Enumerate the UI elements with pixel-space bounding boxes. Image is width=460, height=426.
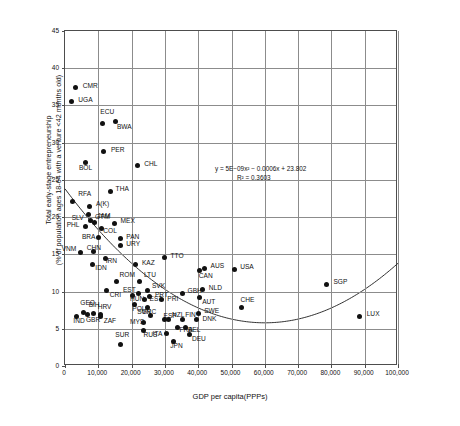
data-point: [197, 295, 202, 300]
data-point-label: BRA: [82, 233, 96, 240]
data-point-label: JAM: [97, 212, 110, 219]
data-point: [91, 311, 96, 316]
data-point: [180, 291, 185, 296]
data-point-label: SGP: [333, 278, 347, 285]
gridline-horizontal: [65, 329, 396, 330]
data-point: [73, 85, 78, 90]
y-axis-tick: 25: [29, 175, 59, 182]
data-point: [162, 255, 167, 260]
data-point: [166, 317, 171, 322]
data-point: [118, 342, 123, 347]
gridline-vertical: [398, 31, 399, 364]
data-point-label: A(K): [96, 200, 109, 207]
y-axis-tick: 15: [29, 250, 59, 257]
data-point: [70, 199, 75, 204]
gridline-horizontal: [65, 105, 396, 106]
data-point: [112, 221, 117, 226]
data-point: [202, 266, 207, 271]
data-point: [90, 262, 95, 267]
data-point: [108, 189, 113, 194]
x-axis-tick-mark: [331, 364, 332, 368]
data-point: [101, 149, 106, 154]
data-point-label: PHL: [67, 221, 80, 228]
gridline-vertical: [298, 31, 299, 364]
data-point-label: SWE: [204, 307, 219, 314]
x-axis-label: GDP per capita(PPPs): [0, 392, 460, 401]
data-point-label: IDN: [95, 264, 106, 271]
data-point: [180, 317, 185, 322]
data-point-label: IND: [73, 317, 84, 324]
data-point-label: SUR: [115, 331, 129, 338]
data-point-label: COL: [103, 227, 117, 234]
gridline-horizontal: [65, 217, 396, 218]
y-axis-tick-mark: [62, 366, 65, 367]
data-point: [133, 262, 138, 267]
gridline-horizontal: [65, 254, 396, 255]
gridline-horizontal: [65, 143, 396, 144]
x-axis-tick-mark: [265, 364, 266, 368]
data-point: [86, 212, 91, 217]
data-point-label: DNK: [203, 315, 217, 322]
data-point-label: ECU: [100, 108, 114, 115]
data-point-label: LTU: [144, 271, 156, 278]
x-axis-tick-mark: [165, 364, 166, 368]
data-point-label: JPN: [170, 342, 182, 349]
y-axis-tick: 30: [29, 138, 59, 145]
data-point-label: CAN: [199, 272, 213, 279]
data-point-label: PER: [111, 146, 125, 153]
y-axis-tick: 40: [29, 64, 59, 71]
data-point-label: PRI: [167, 295, 178, 302]
data-point-label: URY: [126, 240, 140, 247]
y-axis-tick-mark: [62, 329, 65, 330]
x-axis-tick: 100,000: [374, 369, 420, 376]
y-axis-label-line1: Total early-stage entrepreneurship: [44, 115, 53, 224]
chart-figure: CMRUGAECUBWAPERBOLCHLTHARFAA(K)GTMSLVPHL…: [0, 0, 460, 426]
r-squared: R² = 0.3603: [215, 174, 306, 183]
data-point-label: CHE: [240, 296, 254, 303]
x-axis-tick-mark: [398, 364, 399, 368]
data-point: [100, 121, 105, 126]
data-point-label: HUN: [130, 295, 144, 302]
data-point: [69, 99, 74, 104]
data-point-label: ITA: [153, 330, 163, 337]
data-point-label: ROM: [120, 271, 135, 278]
data-point: [239, 305, 244, 310]
data-point-label: NLD: [209, 284, 222, 291]
data-point: [87, 204, 92, 209]
data-point-label: CRI: [110, 291, 121, 298]
x-axis-tick-mark: [298, 364, 299, 368]
data-point-label: THA: [116, 185, 129, 192]
gridline-vertical: [132, 31, 133, 364]
gridline-vertical: [365, 31, 366, 364]
data-point-label: DEU: [192, 335, 206, 342]
data-point: [98, 314, 103, 319]
x-axis-tick-mark: [65, 364, 66, 368]
data-point-label: USA: [240, 263, 254, 270]
data-point-label: CMR: [83, 82, 98, 89]
data-point: [357, 314, 362, 319]
x-axis-tick-mark: [98, 364, 99, 368]
x-axis-tick-mark: [232, 364, 233, 368]
data-point: [159, 297, 164, 302]
data-point-label: EST: [123, 286, 136, 293]
gridline-horizontal: [65, 68, 396, 69]
data-point-label: BWA: [117, 123, 132, 130]
data-point-label: ZAF: [104, 317, 116, 324]
data-point-label: TTO: [171, 252, 184, 259]
data-point-label: SLV: [72, 214, 84, 221]
data-point: [78, 250, 83, 255]
data-point: [96, 235, 101, 240]
data-point-label: LUX: [367, 310, 380, 317]
data-point: [104, 288, 109, 293]
regression-annotation: y = 5E−09x² − 0.0006x + 23.802 R² = 0.36…: [215, 165, 306, 182]
data-point: [232, 267, 237, 272]
plot-area: CMRUGAECUBWAPERBOLCHLTHARFAA(K)GTMSLVPHL…: [64, 30, 397, 365]
data-point-label: SVK: [152, 282, 165, 289]
data-point-label: CHL: [144, 160, 157, 167]
data-point-label: MYS: [130, 318, 144, 325]
y-axis-tick: 20: [29, 213, 59, 220]
y-axis-tick: 0: [29, 362, 59, 369]
data-point-label: SVN: [137, 308, 151, 315]
data-point-label: IRN: [106, 257, 117, 264]
data-point-label: CHN: [87, 244, 101, 251]
